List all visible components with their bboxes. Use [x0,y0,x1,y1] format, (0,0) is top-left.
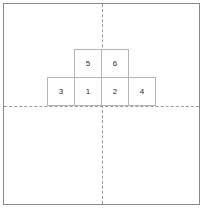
net-cell-1[interactable]: 1 [74,77,102,106]
horizontal-axis-dashed-line [4,106,199,107]
diagram-canvas: 5 6 3 1 2 4 [0,0,207,214]
net-cell-4[interactable]: 4 [128,77,156,106]
net-cell-2[interactable]: 2 [101,77,129,106]
net-cell-6[interactable]: 6 [101,49,129,78]
net-cell-3[interactable]: 3 [47,77,75,106]
net-cell-5[interactable]: 5 [74,49,102,78]
